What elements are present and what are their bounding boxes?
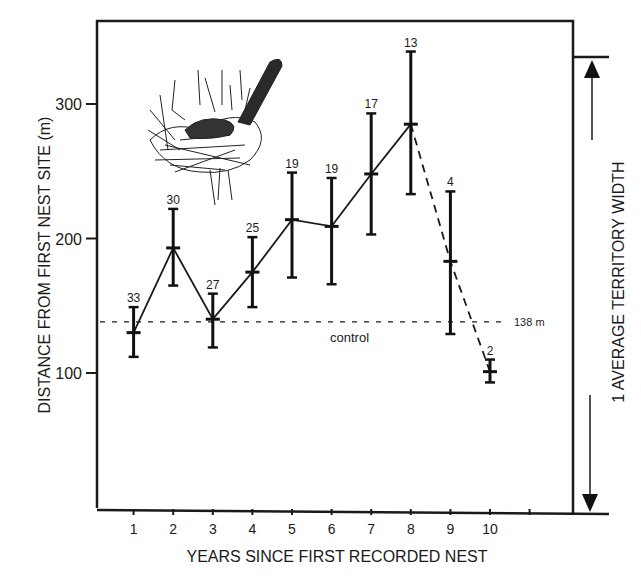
data-point: 19 (325, 162, 339, 284)
x-tick-label: 7 (367, 521, 375, 537)
sample-size-label: 17 (365, 97, 379, 111)
data-series: 333027251919171342 (127, 36, 497, 383)
x-tick-label: 3 (209, 521, 217, 537)
sample-size-label: 33 (127, 291, 141, 305)
arrow-up-icon (584, 60, 600, 78)
x-tick-label: 8 (407, 521, 415, 537)
y-tick-label: 300 (55, 96, 82, 113)
data-point: 2 (483, 344, 497, 383)
y-tick-label: 200 (55, 231, 82, 248)
territory-width-annotation: 1 AVERAGE TERRITORY WIDTH (573, 57, 627, 512)
sample-size-label: 19 (285, 157, 299, 171)
x-tick-label: 1 (130, 521, 138, 537)
data-point: 25 (245, 221, 259, 307)
chart: 100200300 12345678910 DISTANCE FROM FIRS… (0, 0, 641, 579)
bird-nest-illustration (148, 59, 282, 205)
data-point: 30 (166, 193, 180, 286)
arrow-down-icon (582, 494, 598, 512)
control-label: control (330, 330, 369, 345)
sample-size-label: 30 (167, 193, 181, 207)
x-tick-label: 5 (288, 521, 296, 537)
sample-size-label: 13 (404, 36, 418, 50)
data-point: 13 (404, 36, 418, 195)
y-axis: 100200300 (55, 96, 97, 382)
sample-size-label: 2 (487, 344, 494, 358)
x-tick-label: 9 (447, 521, 455, 537)
sample-size-label: 27 (206, 278, 220, 292)
x-tick-label: 4 (249, 521, 257, 537)
y-axis-label: DISTANCE FROM FIRST NEST SITE (m) (36, 117, 53, 414)
data-point: 4 (443, 175, 457, 334)
x-tick-label: 6 (328, 521, 336, 537)
control-value-label: 138 m (514, 316, 545, 328)
x-axis-label: YEARS SINCE FIRST RECORDED NEST (186, 548, 487, 565)
data-point: 19 (285, 157, 299, 278)
y-tick-label: 100 (55, 365, 82, 382)
data-point: 17 (364, 97, 378, 234)
x-tick-label: 2 (169, 521, 177, 537)
sample-size-label: 19 (325, 162, 339, 176)
territory-width-label: 1 AVERAGE TERRITORY WIDTH (610, 161, 627, 402)
x-tick-label: 10 (482, 521, 498, 537)
sample-size-label: 25 (246, 221, 260, 235)
sample-size-label: 4 (447, 175, 454, 189)
